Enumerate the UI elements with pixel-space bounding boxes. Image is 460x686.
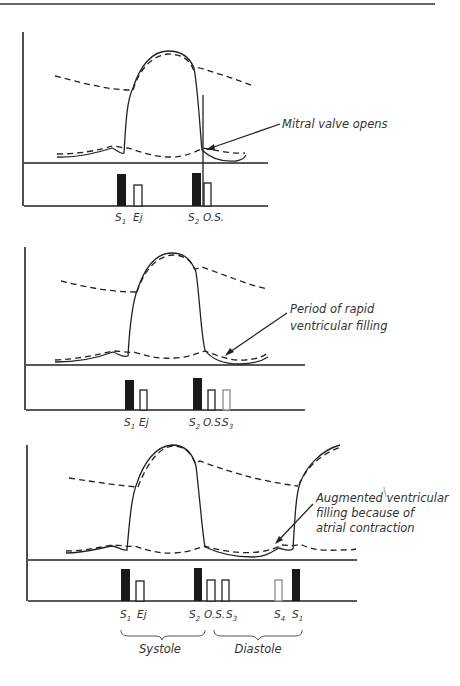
s1-sound-bar: [117, 174, 126, 206]
label-s1: S1: [124, 416, 135, 431]
label-s4: S4: [274, 608, 285, 623]
label-s2: S2: [189, 608, 201, 623]
annotation-line-2: ventricular filling: [290, 319, 387, 333]
ejection-sound-bar: [134, 185, 142, 206]
s2-sound-bar: [192, 173, 201, 206]
s3-sound-bar: [223, 390, 230, 410]
opening-snap-bar: [204, 183, 211, 206]
s1-sound-bar: [125, 380, 134, 410]
label-s1: S1: [120, 608, 131, 623]
opening-snap-bar: [207, 580, 215, 601]
label-s1: S1: [115, 211, 126, 226]
arrowhead-icon: [206, 144, 215, 150]
diastole-brace: [214, 630, 302, 640]
annotation-arrow: [208, 124, 280, 149]
label-ej: Ej: [139, 416, 149, 428]
annotation-line-3: atrial contraction: [316, 521, 415, 535]
heart-sounds-diagram: S1 Ej S2 O.S. Mitral valve opens S1 Ej S…: [0, 0, 460, 686]
label-ej: Ej: [137, 608, 147, 620]
ejection-sound-bar: [136, 581, 144, 601]
label-s2: S2: [188, 211, 200, 226]
panel-3: S1 Ej S2 O.S. S3 S4 S1 Systole Diastole …: [27, 445, 450, 656]
opening-snap-bar: [208, 390, 215, 410]
ejection-sound-bar: [140, 390, 147, 410]
aortic-pressure-curve: [55, 54, 253, 90]
label-os: O.S.: [203, 416, 224, 428]
label-os: O.S.: [203, 211, 224, 223]
label-s3: S3: [222, 416, 233, 431]
label-s3: S3: [226, 608, 237, 623]
phase-label-systole: Systole: [139, 642, 181, 656]
aortic-pressure-curve: [61, 255, 268, 292]
panel-2: S1 Ej S2 O.S. S3 Period of rapid ventric…: [25, 247, 387, 431]
phase-label-diastole: Diastole: [235, 642, 282, 656]
atrial-pressure-curve: [66, 544, 356, 553]
annotation-line-2: filling because of: [316, 506, 416, 520]
label-ej: Ej: [133, 211, 143, 223]
label-s1-next: S1: [292, 608, 303, 623]
annotation-line-1: Augmented ventricular: [315, 491, 450, 505]
s2-sound-bar: [194, 568, 202, 601]
s1-sound-bar: [121, 569, 130, 601]
systole-brace: [121, 630, 205, 640]
s3-sound-bar: [222, 580, 229, 601]
label-s2: S2: [189, 416, 201, 431]
annotation-mitral-valve-opens: Mitral valve opens: [282, 117, 388, 131]
annotation-arrow: [227, 313, 287, 354]
arrowhead-icon: [225, 348, 234, 356]
panel-1: S1 Ej S2 O.S. Mitral valve opens: [23, 32, 388, 226]
annotation-line-1: Period of rapid: [290, 302, 375, 316]
label-os: O.S.: [204, 608, 225, 620]
ventricular-pressure-curve: [57, 51, 246, 161]
s1-next-sound-bar: [292, 569, 300, 601]
s4-sound-bar: [275, 580, 282, 601]
s2-sound-bar: [193, 378, 202, 410]
